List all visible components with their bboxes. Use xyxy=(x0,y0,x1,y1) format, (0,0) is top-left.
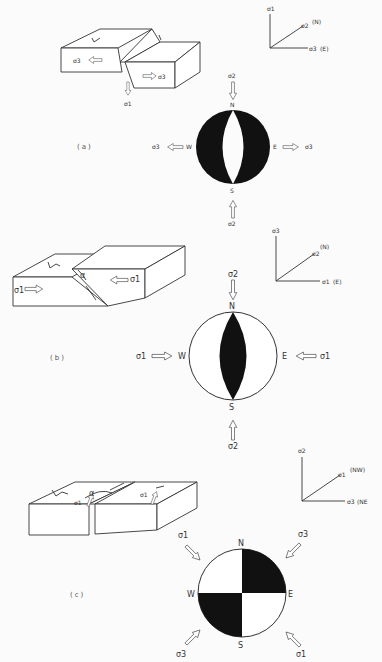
panel-b-axis-horizontal-dir: (E) xyxy=(333,278,341,285)
panel-a-top-stress: σ2 xyxy=(228,72,236,79)
panel-c-caption: (c) xyxy=(70,591,85,599)
panel-a-axis-diagonal-dir: (N) xyxy=(312,18,321,25)
panel-c-W: W xyxy=(187,590,195,599)
panel-c-axis-diagonal: σ1 xyxy=(338,471,346,478)
panel-c-se-stress: σ1 xyxy=(296,650,306,659)
panel-c-axis-vertical: σ2 xyxy=(298,447,306,454)
panel-b-right-stress-label: σ1 xyxy=(130,275,140,284)
panel-c-stress-axes xyxy=(302,457,345,501)
panel-b-angle-label: α xyxy=(80,271,85,280)
panel-c-nw-stress: σ1 xyxy=(178,531,188,540)
panel-b-axis-horizontal: σ1 xyxy=(322,278,330,285)
panel-a-bottom-stress: σ2 xyxy=(228,220,236,227)
panel-c-E: E xyxy=(288,590,293,599)
panel-a-down-stress-label: σ1 xyxy=(124,100,132,107)
panel-c-ne-stress: σ3 xyxy=(298,530,308,539)
panel-c-axis-horizontal-dir: (NE xyxy=(357,498,368,505)
panel-b-right-stress: σ1 xyxy=(320,352,330,361)
panel-a-E: E xyxy=(273,143,277,150)
panel-b-top-stress: σ2 xyxy=(228,270,238,279)
panel-b-W: W xyxy=(178,352,186,361)
panel-a: σ3 σ3 σ1 σ1 σ2 (N) σ3 (E) N S W E σ2 σ2 … xyxy=(61,5,328,227)
panel-b-left-stress: σ1 xyxy=(136,352,146,361)
panel-c-blocks xyxy=(29,482,197,535)
panel-b-beachball xyxy=(189,312,277,400)
panel-a-W: W xyxy=(186,143,192,150)
panel-a-S: S xyxy=(230,187,234,194)
fault-mechanism-figure: σ3 σ3 σ1 σ1 σ2 (N) σ3 (E) N S W E σ2 σ2 … xyxy=(0,0,382,662)
panel-c-beachball xyxy=(198,549,286,637)
panel-a-blocks xyxy=(61,29,200,95)
panel-c-angle-label: α xyxy=(89,489,94,498)
panel-b: σ1 σ1 α σ3 σ2 (N) σ1 (E) N S W E σ2 σ2 σ… xyxy=(13,227,341,451)
panel-b-left-stress-label: σ1 xyxy=(14,286,24,295)
panel-b-E: E xyxy=(282,352,287,361)
panel-a-axis-vertical: σ1 xyxy=(267,5,275,12)
panel-a-right-stress-label: σ3 xyxy=(158,73,166,80)
panel-c-right-stress-label: σ1 xyxy=(140,491,148,498)
panel-b-stress-axes xyxy=(276,236,320,281)
panel-c-axis-horizontal: σ3 xyxy=(347,498,355,505)
panel-b-S: S xyxy=(229,403,234,412)
panel-a-axis-horizontal: σ3 xyxy=(309,45,317,52)
panel-a-left-stress-label: σ3 xyxy=(73,57,81,64)
panel-b-caption: (b) xyxy=(50,354,66,362)
panel-a-caption: (a) xyxy=(77,143,93,151)
panel-b-N: N xyxy=(229,302,235,311)
panel-a-beachball xyxy=(196,110,270,184)
panel-a-axis-diagonal: σ2 xyxy=(301,22,309,29)
panel-a-axis-horizontal-dir: (E) xyxy=(320,45,328,52)
panel-b-axis-diagonal-dir: (N) xyxy=(320,243,329,250)
panel-c: σ1 σ1 α σ2 σ1 (NW) σ3 (NE N S W E σ1 σ3 … xyxy=(29,447,368,659)
panel-c-left-stress-label: σ1 xyxy=(74,499,82,506)
panel-c-N: N xyxy=(238,539,244,548)
panel-a-right-stress: σ3 xyxy=(305,143,313,150)
panel-c-sw-stress: σ3 xyxy=(176,650,186,659)
panel-b-axis-diagonal: σ2 xyxy=(312,250,320,257)
panel-b-axis-vertical: σ3 xyxy=(272,227,280,234)
panel-b-blocks xyxy=(13,246,185,306)
panel-a-N: N xyxy=(230,101,235,108)
panel-c-axis-diagonal-dir: (NW) xyxy=(350,466,365,473)
panel-c-S: S xyxy=(238,641,243,650)
panel-b-bottom-stress: σ2 xyxy=(228,442,238,451)
panel-a-stress-axes xyxy=(270,14,308,48)
panel-a-left-stress: σ3 xyxy=(152,143,160,150)
